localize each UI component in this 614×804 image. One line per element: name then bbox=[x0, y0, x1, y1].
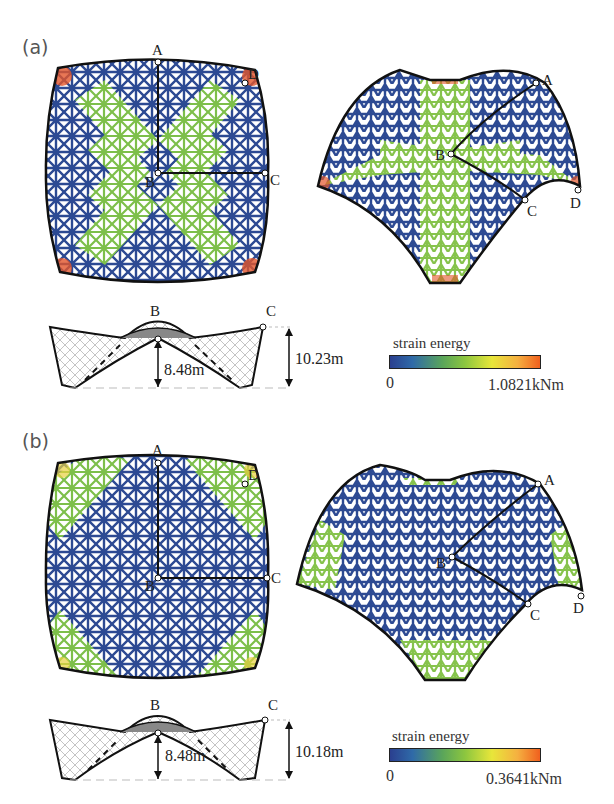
legend-b-max: 0.3641kNm bbox=[486, 770, 562, 788]
legend-b-title: strain energy bbox=[392, 728, 470, 745]
section-b-point-c: C bbox=[268, 697, 278, 714]
legend-b-colorbar bbox=[389, 748, 541, 762]
section-view-b bbox=[0, 0, 614, 804]
section-b-height-c: 10.18m bbox=[295, 743, 343, 761]
section-b-point-b: B bbox=[150, 697, 160, 714]
legend-b-min: 0 bbox=[386, 767, 394, 785]
section-b-height-b: 8.48m bbox=[165, 747, 205, 765]
